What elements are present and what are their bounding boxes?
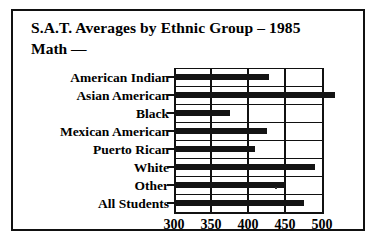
y-tick xyxy=(167,202,174,204)
row-separator xyxy=(174,158,324,159)
row-separator xyxy=(174,68,324,69)
chart-title: S.A.T. Averages by Ethnic Group – 1985 xyxy=(31,19,351,37)
category-label-asian-american: Asian American xyxy=(14,88,169,104)
category-label-mexican-american: Mexican American xyxy=(14,124,169,140)
row-separator xyxy=(174,122,324,123)
print-speck xyxy=(275,187,277,189)
y-tick xyxy=(167,166,174,168)
plot-right-border xyxy=(322,68,324,214)
category-label-white: White xyxy=(14,160,169,176)
y-tick xyxy=(167,94,174,96)
row-separator xyxy=(174,176,324,177)
category-label-puerto-rican: Puerto Rican xyxy=(14,142,169,158)
row-separator xyxy=(174,194,324,195)
gridline-400 xyxy=(247,68,249,214)
bar-black xyxy=(174,110,230,116)
row-separator xyxy=(174,212,324,213)
y-tick xyxy=(167,130,174,132)
y-tick xyxy=(167,112,174,114)
bar-mexican-american xyxy=(174,128,267,134)
x-tick-label-500: 500 xyxy=(300,217,344,233)
bar-puerto-rican xyxy=(174,146,255,152)
category-label-american-indian: American Indian xyxy=(14,70,169,86)
y-axis-line xyxy=(174,68,176,214)
category-label-black: Black xyxy=(14,106,169,122)
category-label-other: Other xyxy=(14,178,169,194)
gridline-450 xyxy=(284,68,286,214)
y-tick xyxy=(167,148,174,150)
bar-other xyxy=(174,182,285,188)
bar-asian-american xyxy=(174,92,335,98)
bar-american-indian xyxy=(174,74,269,80)
category-label-all-students: All Students xyxy=(14,196,169,212)
y-tick xyxy=(167,184,174,186)
chart-frame: S.A.T. Averages by Ethnic Group – 1985 M… xyxy=(11,9,365,231)
bar-white xyxy=(174,164,315,170)
row-separator xyxy=(174,86,324,87)
gridline-350 xyxy=(210,68,212,214)
row-separator xyxy=(174,104,324,105)
chart-subtitle: Math — xyxy=(31,40,87,58)
row-separator xyxy=(174,140,324,141)
y-tick xyxy=(167,76,174,78)
bar-all-students xyxy=(174,200,304,206)
